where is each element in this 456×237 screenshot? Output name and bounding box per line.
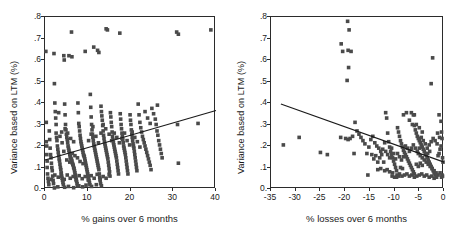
x-tick-mark xyxy=(394,188,395,191)
data-point xyxy=(66,131,70,135)
data-point xyxy=(397,130,401,134)
data-point xyxy=(104,127,108,131)
data-point xyxy=(119,123,123,127)
data-point xyxy=(129,123,133,127)
x-tick-label: 30 xyxy=(168,192,177,202)
x-tick-mark xyxy=(319,188,320,191)
data-point xyxy=(70,55,74,59)
y-tick-label: .4 xyxy=(248,97,267,107)
chart-panel-gains: Variance based on LTM (%) .8.7.6.5.4.3.2… xyxy=(0,0,228,237)
data-point xyxy=(378,156,382,160)
x-tick-mark xyxy=(295,188,296,191)
y-tick-mark xyxy=(41,16,44,17)
data-point xyxy=(54,116,58,120)
data-point xyxy=(131,139,135,143)
data-point xyxy=(376,168,380,172)
data-point xyxy=(72,186,76,190)
data-point xyxy=(341,50,345,54)
data-point xyxy=(408,118,412,122)
data-point xyxy=(133,153,137,157)
data-point xyxy=(326,153,330,157)
data-point xyxy=(420,164,424,168)
data-point xyxy=(384,150,388,154)
y-tick-mark xyxy=(267,167,270,168)
x-tick-mark xyxy=(215,188,216,191)
data-point xyxy=(107,167,111,171)
data-point xyxy=(56,175,60,179)
data-point xyxy=(118,141,122,145)
data-point xyxy=(347,66,351,70)
data-point xyxy=(384,111,388,115)
regression-line xyxy=(281,104,444,162)
data-point xyxy=(125,162,129,166)
data-point xyxy=(112,131,116,135)
data-point xyxy=(109,121,113,125)
data-point xyxy=(133,136,137,140)
x-tick-label: 10 xyxy=(82,192,91,202)
data-point xyxy=(53,110,57,114)
data-point xyxy=(417,146,421,150)
data-point xyxy=(63,127,67,131)
data-point xyxy=(99,104,103,108)
figure-container: Variance based on LTM (%) .8.7.6.5.4.3.2… xyxy=(0,0,456,237)
data-point xyxy=(398,135,402,139)
y-tick-mark xyxy=(41,38,44,39)
x-tick-label: 40 xyxy=(210,192,219,202)
data-point xyxy=(57,111,61,115)
x-tick-mark xyxy=(44,188,45,191)
data-point xyxy=(141,135,145,139)
data-point xyxy=(402,155,406,159)
data-point xyxy=(55,136,59,140)
data-point xyxy=(139,126,143,130)
data-point xyxy=(63,102,67,106)
data-point xyxy=(415,123,419,127)
data-point xyxy=(106,28,110,32)
data-point xyxy=(52,52,56,56)
data-point xyxy=(89,115,93,119)
data-point xyxy=(77,184,81,188)
data-point xyxy=(56,185,60,189)
data-point xyxy=(421,139,425,143)
plot-area-left xyxy=(44,16,215,188)
data-point xyxy=(435,142,439,146)
data-point xyxy=(441,156,445,160)
data-point xyxy=(136,140,140,144)
chart-panel-losses: Variance based on LTM (%) .8.7.6.5.4.3.2… xyxy=(228,0,456,237)
data-point xyxy=(115,162,119,166)
data-point xyxy=(142,138,146,142)
data-point xyxy=(436,154,440,158)
x-tick-mark xyxy=(87,188,88,191)
data-point xyxy=(100,184,104,188)
data-point xyxy=(50,169,54,173)
y-tick-mark xyxy=(267,59,270,60)
data-point xyxy=(115,156,119,160)
data-point xyxy=(144,147,148,151)
data-point xyxy=(426,152,430,156)
data-point xyxy=(54,131,58,135)
data-point xyxy=(118,112,122,116)
data-point xyxy=(87,139,91,143)
data-point xyxy=(117,172,121,176)
data-point xyxy=(353,121,357,125)
y-tick-label: .4 xyxy=(22,97,41,107)
data-point xyxy=(437,113,441,117)
data-point xyxy=(81,162,85,166)
data-point xyxy=(59,172,63,176)
data-point xyxy=(97,51,101,55)
data-point xyxy=(101,123,105,127)
data-point xyxy=(78,133,82,137)
data-point xyxy=(148,164,152,168)
y-tick-mark xyxy=(267,124,270,125)
data-point xyxy=(47,183,51,187)
data-point xyxy=(104,176,108,180)
data-point xyxy=(54,123,58,127)
data-point xyxy=(60,141,64,145)
y-tick-mark xyxy=(267,16,270,17)
data-point xyxy=(419,136,423,140)
data-point xyxy=(62,178,66,182)
data-point xyxy=(107,164,111,168)
data-point xyxy=(155,129,159,133)
data-point xyxy=(399,139,403,143)
data-point xyxy=(414,128,418,132)
data-point xyxy=(77,125,81,129)
